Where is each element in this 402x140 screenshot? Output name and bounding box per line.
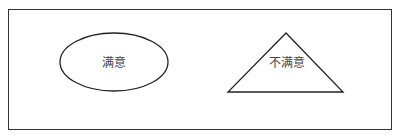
- shapes-layer: [0, 0, 402, 140]
- ellipse-label: 满意: [102, 57, 126, 69]
- triangle-label: 不满意: [269, 57, 305, 69]
- diagram-canvas: 满意 不满意: [0, 0, 402, 140]
